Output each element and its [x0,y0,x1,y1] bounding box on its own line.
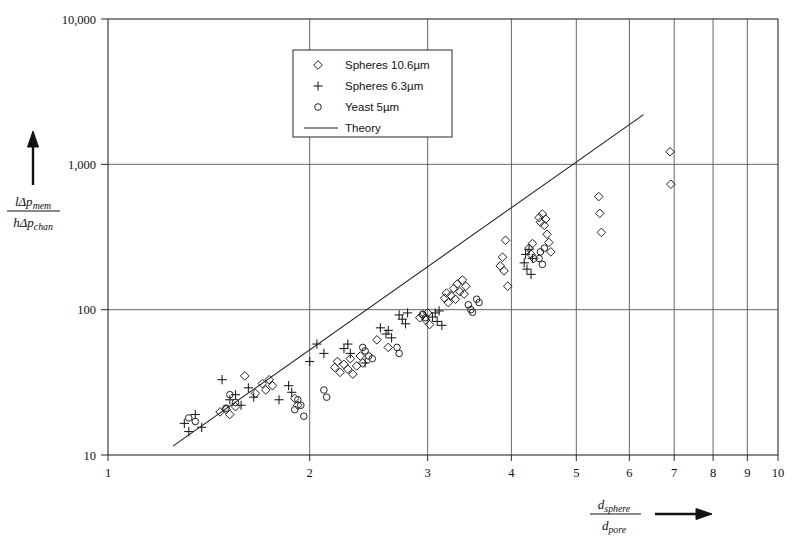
data-point [352,362,361,371]
data-point [249,393,258,402]
data-point [543,230,552,239]
data-point [498,253,507,262]
data-point [185,415,192,422]
y-tick-label-100: 100 [77,303,96,317]
data-point [321,387,328,394]
x-tick-label-7: 7 [671,466,677,480]
x-tick-label-3: 3 [425,466,431,480]
data-point [541,245,548,252]
data-point [501,236,510,245]
y-tick-label-10000: 10,000 [62,13,96,27]
series-2 [185,245,547,425]
data-point [217,375,226,384]
series-1 [180,245,537,436]
series-0 [216,147,675,418]
svg-text:lΔpmem: lΔpmem [15,194,51,211]
data-point [323,394,330,401]
data-point [339,344,348,353]
data-point [305,357,314,366]
svg-text:dsphere: dsphere [598,497,631,514]
data-point [319,349,328,358]
data-point [373,336,382,345]
data-point [268,381,277,390]
data-point [526,270,535,279]
chart-legend: Spheres 10.6µmSpheres 6.3µmYeast 5µmTheo… [293,50,452,137]
x-tick-label-6: 6 [626,466,632,480]
x-tick-label-8: 8 [710,466,716,480]
y-axis-ticks: 101001,00010,000 [62,13,108,463]
data-point [594,192,603,201]
y-tick-label-10: 10 [84,449,97,463]
data-point [184,427,193,436]
y-label-numerator-sub: mem [33,200,52,211]
x-tick-label-10: 10 [772,466,785,480]
data-point [231,390,240,399]
data-point [666,147,675,156]
y-label-denominator-sub: chan [34,221,53,232]
data-point [274,395,283,404]
data-point [597,228,606,237]
legend-label-2: Yeast 5µm [345,101,399,113]
data-point [301,413,308,420]
data-point [503,282,512,291]
x-label-denominator-sub: pore [607,524,626,535]
svg-text:hΔpchan: hΔpchan [13,215,53,232]
data-point [537,249,544,256]
legend-label-1: Spheres 6.3µm [345,80,423,92]
y-label-numerator: lΔp [15,194,33,209]
x-tick-label-4: 4 [508,466,515,480]
data-point [500,267,509,276]
data-point [539,261,546,268]
x-tick-label-1: 1 [105,466,111,480]
x-label-numerator-sub: sphere [604,503,630,514]
data-point [384,343,393,352]
data-point [376,323,385,332]
x-tick-label-2: 2 [307,466,313,480]
chart-container: 12345678910 101001,00010,000 lΔpmem hΔpc… [0,0,797,544]
data-point [595,209,604,218]
data-point [437,321,446,330]
data-point [298,402,305,409]
data-point [240,372,249,381]
data-point [396,350,403,357]
y-axis-title: lΔpmem hΔpchan [7,131,60,232]
legend-label-3: Theory [345,122,381,134]
x-axis-title: dsphere dpore [590,497,712,535]
x-tick-label-5: 5 [573,466,579,480]
data-point [192,418,199,425]
data-point [343,339,352,348]
x-axis-ticks: 12345678910 [105,455,784,480]
y-tick-label-1000: 1,000 [68,158,96,172]
legend-label-0: Spheres 10.6µm [345,59,430,71]
scatter-plot-svg: 12345678910 101001,00010,000 lΔpmem hΔpc… [0,0,797,544]
data-point [496,262,505,271]
data-point [180,419,189,428]
y-label-denominator: hΔp [13,215,34,230]
svg-text:dpore: dpore [602,518,627,535]
x-tick-label-9: 9 [744,466,750,480]
data-point [291,406,298,413]
data-point [346,349,355,358]
